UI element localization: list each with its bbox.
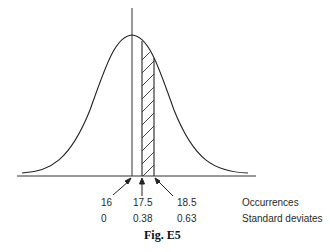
arrow-18-5-head (155, 178, 160, 184)
arrow-18-5 (158, 181, 173, 196)
hatched-area (142, 48, 154, 177)
normal-curve (22, 35, 248, 173)
label-sd-0-63: 0.63 (177, 213, 196, 225)
label-occ-18-5: 18.5 (177, 197, 196, 209)
label-sd-0-38: 0.38 (133, 213, 152, 225)
figure-caption: Fig. E5 (144, 228, 181, 243)
arrow-17-5-head (140, 178, 145, 184)
label-occ-16: 16 (101, 197, 112, 209)
label-occurrences: Occurrences (242, 197, 299, 209)
label-occ-17-5: 17.5 (133, 197, 152, 209)
label-sd-0: 0 (101, 213, 107, 225)
label-standard-deviates: Standard deviates (242, 213, 323, 225)
